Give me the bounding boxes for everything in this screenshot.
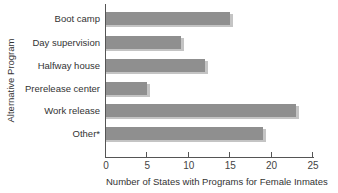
bar-row: Work release: [0, 104, 338, 118]
bar: [106, 127, 263, 140]
x-tick-label: 20: [266, 160, 277, 171]
bar-row: Other*: [0, 127, 338, 141]
x-tick-label: 0: [103, 160, 109, 171]
category-label: Other*: [73, 127, 100, 141]
x-axis-line: [105, 157, 314, 158]
x-tick: [229, 152, 230, 158]
category-label: Halfway house: [38, 59, 100, 73]
x-tick: [271, 152, 272, 158]
bar-row: Prerelease center: [0, 82, 338, 96]
x-tick-label: 5: [145, 160, 151, 171]
category-label: Work release: [44, 104, 100, 118]
x-tick-label: 10: [183, 160, 194, 171]
bar: [106, 82, 147, 95]
category-label: Boot camp: [55, 12, 100, 26]
x-tick-label: 15: [225, 160, 236, 171]
x-tick: [188, 152, 189, 158]
bar: [106, 104, 296, 117]
y-axis-line: [105, 4, 106, 158]
bar: [106, 36, 181, 49]
bar-row: Boot camp: [0, 12, 338, 26]
category-label: Day supervision: [32, 36, 100, 50]
bar-row: Halfway house: [0, 59, 338, 73]
bar-row: Day supervision: [0, 36, 338, 50]
category-label: Prerelease center: [25, 82, 100, 96]
bar: [106, 59, 205, 72]
x-tick: [312, 152, 313, 158]
x-tick: [105, 152, 106, 158]
x-tick: [146, 152, 147, 158]
x-tick-label: 25: [307, 160, 318, 171]
x-axis-label: Number of States with Programs for Femal…: [106, 176, 316, 187]
bar: [106, 12, 230, 25]
